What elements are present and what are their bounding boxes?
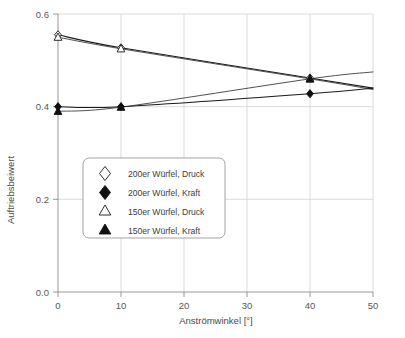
ytick-label-0-0: 0.0	[36, 287, 49, 298]
lift-coefficient-line-chart: 0.6 0.4 0.2 0.0 0 10 20 30 40 50 Anström…	[0, 0, 405, 338]
y-axis-tick-labels: 0.6 0.4 0.2 0.0	[36, 9, 49, 298]
x-axis-tick-labels: 0 10 20 30 40 50	[55, 300, 378, 311]
xtick-label-10: 10	[116, 300, 127, 311]
x-axis-ticks	[58, 292, 373, 297]
xtick-label-0: 0	[55, 300, 60, 311]
xtick-label-50: 50	[368, 300, 379, 311]
xtick-label-20: 20	[179, 300, 190, 311]
legend-label-200er-kraft: 200er Würfel, Kraft	[128, 188, 201, 198]
legend-label-150er-kraft: 150er Würfel, Kraft	[128, 226, 201, 236]
legend-label-150er-druck: 150er Würfel, Druck	[128, 207, 205, 217]
legend-label-200er-druck: 200er Würfel, Druck	[128, 169, 205, 179]
plot-area-background	[58, 14, 373, 292]
y-axis-ticks	[53, 14, 58, 292]
chart-legend: 200er Würfel, Druck 200er Würfel, Kraft …	[83, 158, 225, 238]
xtick-label-30: 30	[242, 300, 253, 311]
ytick-label-0-2: 0.2	[36, 194, 49, 205]
chart-figure: 0.6 0.4 0.2 0.0 0 10 20 30 40 50 Anström…	[0, 0, 405, 338]
ytick-label-0-4: 0.4	[36, 101, 49, 112]
y-axis-title: Auftriebsbeiwert	[5, 156, 16, 224]
x-axis-title: Anströmwinkel [°]	[179, 315, 253, 326]
ytick-label-0-6: 0.6	[36, 9, 49, 20]
xtick-label-40: 40	[305, 300, 316, 311]
